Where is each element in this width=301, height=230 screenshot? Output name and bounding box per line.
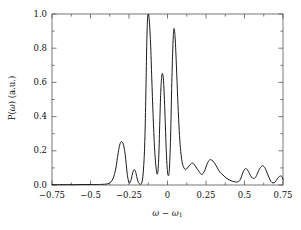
series-line-p-omega (52, 14, 283, 185)
x-tick-label: −0.25 (109, 190, 149, 200)
x-tick-label: 0.25 (186, 190, 226, 200)
axes-frame (52, 14, 283, 185)
y-tick-label: 0.6 (18, 77, 47, 87)
plot-frame (52, 14, 283, 185)
data-series-group (52, 14, 283, 185)
y-axis-label: P(ω) (a.u.) (7, 62, 17, 134)
y-tick-label: 0.0 (18, 180, 47, 190)
figure-container: 0.00.20.40.60.81.0 −0.75−0.5−0.2500.250.… (0, 0, 301, 230)
y-axis-label-text: P(ω) (a.u.) (7, 76, 17, 121)
x-tick-label: 0 (148, 190, 188, 200)
x-tick-label: −0.5 (71, 190, 111, 200)
y-tick-label: 1.0 (18, 9, 47, 19)
x-axis-label: ω − ω1 (52, 208, 283, 218)
y-tick-label: 0.8 (18, 43, 47, 53)
x-axis-label-text: ω − ω1 (152, 208, 182, 218)
x-tick-label: 0.5 (225, 190, 265, 200)
y-tick-label: 0.2 (18, 145, 47, 155)
x-tick-label: 0.75 (263, 190, 301, 200)
x-tick-label: −0.75 (32, 190, 72, 200)
y-tick-label: 0.4 (18, 111, 47, 121)
tick-marks (52, 14, 283, 185)
